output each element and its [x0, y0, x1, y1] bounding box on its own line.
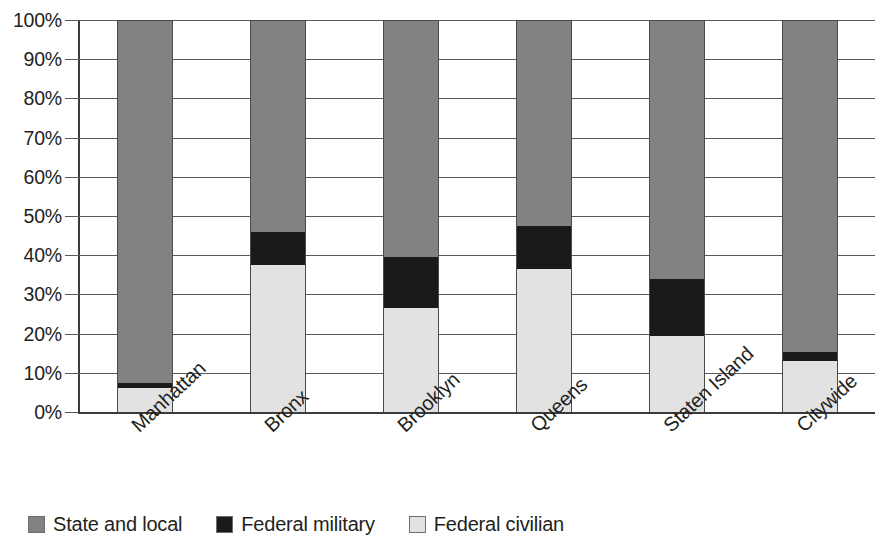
- y-axis-tick-100: [65, 20, 78, 21]
- y-axis-tick-60: [65, 177, 78, 178]
- legend-label-state-and-local: State and local: [53, 513, 182, 536]
- bar-manhattan[interactable]: [117, 20, 173, 412]
- bar-segment-queens-state-and-local[interactable]: [516, 20, 572, 226]
- bar-segment-staten-island-federal-military[interactable]: [649, 279, 705, 336]
- bar-staten-island[interactable]: [649, 20, 705, 412]
- y-axis-label-80: 80%: [24, 87, 62, 110]
- y-axis-label-40: 40%: [24, 244, 62, 267]
- bar-segment-citywide-state-and-local[interactable]: [782, 20, 838, 352]
- y-axis-tick-90: [65, 59, 78, 60]
- bar-queens[interactable]: [516, 20, 572, 412]
- y-axis-label-0: 0%: [34, 401, 62, 424]
- gridline-0: [78, 412, 875, 414]
- y-axis-label-60: 60%: [24, 165, 62, 188]
- bar-brooklyn[interactable]: [383, 20, 439, 412]
- y-axis-label-90: 90%: [24, 48, 62, 71]
- y-axis-label-50: 50%: [24, 205, 62, 228]
- bar-segment-bronx-state-and-local[interactable]: [250, 20, 306, 232]
- gridline-90: [78, 59, 875, 60]
- y-axis-tick-80: [65, 98, 78, 99]
- legend-swatch-state-and-local: [28, 516, 45, 533]
- legend-label-federal-civilian: Federal civilian: [434, 513, 564, 536]
- legend-swatch-federal-civilian: [409, 516, 426, 533]
- stacked-bar-chart: 100%90%80%70%60%50%40%30%20%10%0% Manhat…: [0, 0, 891, 552]
- bar-segment-manhattan-state-and-local[interactable]: [117, 20, 173, 383]
- legend-item-federal-civilian[interactable]: Federal civilian: [409, 513, 564, 536]
- y-axis-label-100: 100%: [13, 9, 62, 32]
- gridline-50: [78, 216, 875, 217]
- bar-segment-staten-island-state-and-local[interactable]: [649, 20, 705, 279]
- gridline-60: [78, 177, 875, 178]
- y-axis-tick-30: [65, 294, 78, 295]
- y-axis-tick-50: [65, 216, 78, 217]
- bar-bronx[interactable]: [250, 20, 306, 412]
- y-axis-tick-10: [65, 373, 78, 374]
- y-axis-tick-70: [65, 138, 78, 139]
- y-axis-label-20: 20%: [24, 322, 62, 345]
- y-axis-label-30: 30%: [24, 283, 62, 306]
- y-axis-label-10: 10%: [24, 361, 62, 384]
- legend-item-federal-military[interactable]: Federal military: [216, 513, 375, 536]
- legend-label-federal-military: Federal military: [241, 513, 375, 536]
- y-axis-label-70: 70%: [24, 126, 62, 149]
- y-axis-tick-0: [65, 412, 78, 413]
- legend-item-state-and-local[interactable]: State and local: [28, 513, 182, 536]
- bar-segment-citywide-federal-military[interactable]: [782, 352, 838, 361]
- legend-swatch-federal-military: [216, 516, 233, 533]
- gridline-30: [78, 294, 875, 295]
- bar-segment-brooklyn-state-and-local[interactable]: [383, 20, 439, 257]
- y-axis-tick-40: [65, 255, 78, 256]
- gridline-80: [78, 98, 875, 99]
- plot-area: 100%90%80%70%60%50%40%30%20%10%0%: [78, 20, 875, 412]
- y-axis-tick-20: [65, 334, 78, 335]
- gridline-70: [78, 138, 875, 139]
- bar-citywide[interactable]: [782, 20, 838, 412]
- chart-legend: State and localFederal militaryFederal c…: [28, 513, 564, 536]
- bar-segment-bronx-federal-military[interactable]: [250, 232, 306, 265]
- bar-segment-brooklyn-federal-military[interactable]: [383, 257, 439, 308]
- gridline-20: [78, 334, 875, 335]
- bar-segment-queens-federal-military[interactable]: [516, 226, 572, 269]
- gridline-100: [78, 20, 875, 21]
- gridline-40: [78, 255, 875, 256]
